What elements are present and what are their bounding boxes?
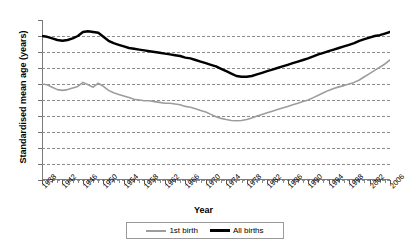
x-axis-title: Year bbox=[0, 205, 407, 215]
x-tick-mark bbox=[201, 180, 202, 183]
x-tick-mark bbox=[283, 180, 284, 183]
legend-item-1st-birth[interactable]: 1st birth bbox=[146, 226, 197, 235]
chart-legend: 1st birth All births bbox=[126, 222, 284, 239]
series-line-1st-birth bbox=[42, 60, 390, 121]
x-tick-mark bbox=[323, 180, 324, 183]
legend-swatch-all-births bbox=[210, 229, 230, 232]
x-tick-mark bbox=[221, 180, 222, 183]
series-line-all-births bbox=[42, 31, 390, 77]
x-tick-mark bbox=[385, 180, 386, 183]
legend-item-all-births[interactable]: All births bbox=[210, 226, 264, 235]
x-tick-mark bbox=[119, 180, 120, 183]
y-axis-title: Standardised mean age (years) bbox=[18, 12, 28, 182]
series-layer bbox=[42, 20, 390, 180]
x-tick-mark bbox=[242, 180, 243, 183]
x-tick-mark bbox=[98, 180, 99, 183]
x-tick-mark bbox=[78, 180, 79, 183]
x-tick-mark bbox=[180, 180, 181, 183]
x-tick-mark bbox=[262, 180, 263, 183]
x-tick-mark bbox=[303, 180, 304, 183]
legend-label-all-births: All births bbox=[233, 226, 264, 235]
x-tick-mark bbox=[344, 180, 345, 183]
x-tick-mark bbox=[57, 180, 58, 183]
x-tick-mark bbox=[139, 180, 140, 183]
x-tick-mark bbox=[364, 180, 365, 183]
legend-label-1st-birth: 1st birth bbox=[169, 226, 197, 235]
x-tick-label: 2006 bbox=[388, 172, 406, 190]
x-tick-mark bbox=[160, 180, 161, 183]
legend-swatch-1st-birth bbox=[146, 230, 166, 232]
chart-container: Standardised mean age (years) 3029282726… bbox=[0, 0, 407, 244]
